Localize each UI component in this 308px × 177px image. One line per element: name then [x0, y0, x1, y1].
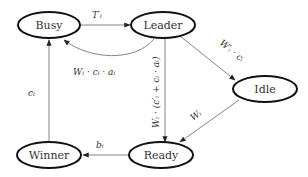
- node-label-busy: Busy: [35, 19, 63, 32]
- edge-label-ready-winner: bᵢ: [96, 140, 104, 150]
- edge-leader-to-ready: Wᵢ · (c′ᵢ + cᵢ · aᵢ): [151, 38, 165, 142]
- node-label-winner: Winner: [29, 149, 70, 162]
- edge-leader-to-idle: W′ᵢ · cᵢ: [180, 36, 246, 80]
- edge-busy-to-leader: T′ᵢ: [80, 10, 130, 25]
- node-leader: Leader: [131, 12, 195, 38]
- node-busy: Busy: [18, 12, 80, 38]
- edge-label-leader-ready: Wᵢ · (c′ᵢ + cᵢ · aᵢ): [151, 56, 161, 128]
- node-label-idle: Idle: [254, 83, 275, 96]
- edge-ready-to-winner: bᵢ: [83, 140, 129, 155]
- edge-winner-to-busy: cᵢ: [28, 40, 49, 142]
- edge-leader-to-busy: Wᵢ · cᵢ · aᵢ: [64, 39, 154, 77]
- node-ready: Ready: [129, 142, 193, 168]
- node-label-ready: Ready: [144, 149, 179, 162]
- edge-label-idle-ready: Wᵢ: [188, 108, 203, 123]
- edge-label-leader-idle: W′ᵢ · cᵢ: [218, 38, 247, 64]
- node-label-leader: Leader: [143, 19, 183, 32]
- edge-label-busy-leader: T′ᵢ: [92, 10, 102, 20]
- state-diagram: T′ᵢ Wᵢ · cᵢ · aᵢ W′ᵢ · cᵢ Wᵢ · (c′ᵢ + cᵢ…: [0, 0, 308, 177]
- edge-label-leader-busy: Wᵢ · cᵢ · aᵢ: [73, 67, 115, 77]
- edge-idle-to-ready: Wᵢ: [180, 100, 239, 142]
- node-idle: Idle: [233, 76, 297, 102]
- node-winner: Winner: [17, 142, 81, 168]
- edge-label-winner-busy: cᵢ: [28, 88, 35, 98]
